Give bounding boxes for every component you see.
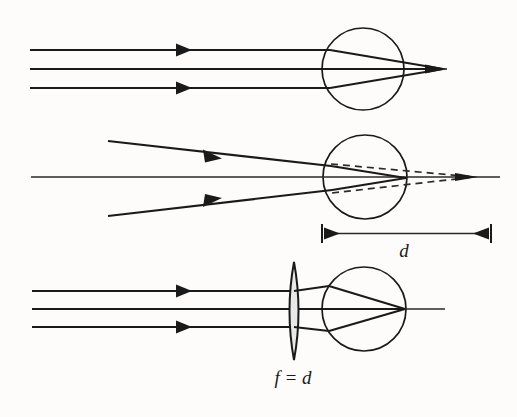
panel-parallel-rays <box>30 28 447 110</box>
converging-lens-panel3 <box>290 262 299 360</box>
refracted-ray-lower-panel3 <box>329 309 405 331</box>
panel-converging-rays: d <box>31 135 500 261</box>
focal-point-tip-panel1 <box>425 65 447 74</box>
virtual-focus-tip-panel2 <box>455 173 478 181</box>
post-lens-ray-lower-panel3 <box>294 327 329 331</box>
focal-length-label: f = d <box>274 367 312 388</box>
ray-arrowhead-upper-panel2 <box>203 150 222 163</box>
post-lens-ray-upper-panel3 <box>294 286 329 291</box>
ray-arrowhead-lower-panel2 <box>203 194 222 207</box>
dimension-arrow-right <box>473 228 489 240</box>
ray-arrowhead-upper-panel3 <box>176 285 192 298</box>
optics-figure: d f = d <box>0 0 517 417</box>
panel-lens-plus-sphere: f = d <box>32 262 445 388</box>
incident-ray-lower-panel2 <box>108 190 332 216</box>
ray-arrowhead-lower-panel1 <box>176 82 192 95</box>
incident-ray-upper-panel2 <box>108 141 331 166</box>
optics-diagram-svg: d f = d <box>0 0 517 417</box>
refracted-ray-upper-panel3 <box>329 286 405 309</box>
ray-arrowhead-upper-panel1 <box>176 44 192 57</box>
distance-label-d: d <box>399 240 409 261</box>
virtual-ray-upper-panel2 <box>331 164 474 177</box>
ray-arrowhead-lower-panel3 <box>176 321 192 334</box>
dimension-arrow-left <box>324 228 340 240</box>
